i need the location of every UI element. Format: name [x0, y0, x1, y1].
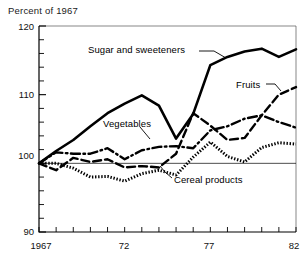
leader-line-fruits [266, 84, 281, 91]
leader-line-vegetables [140, 127, 150, 139]
chart-plot-area [0, 0, 307, 259]
leader-line-sugar [199, 51, 226, 58]
series-line-fruits [39, 87, 296, 170]
x-axis-ticks [39, 227, 296, 232]
chart-container: Percent of 1967 120 110 100 90 1967 72 7… [0, 0, 307, 259]
y-axis-ticks [39, 26, 46, 232]
axis-frame [39, 26, 296, 232]
data-series-group [39, 49, 296, 182]
